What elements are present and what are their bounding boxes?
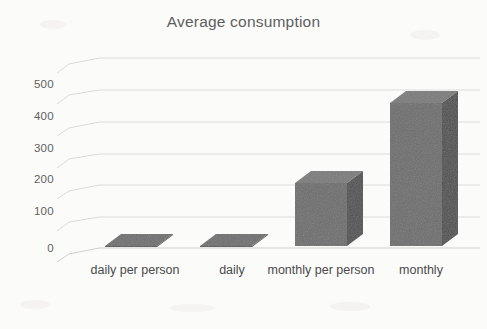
y-tick-0: 0 (10, 242, 54, 254)
x-tick-monthly-per-person: monthly per person (266, 262, 376, 279)
y-tick-500: 500 (10, 78, 54, 90)
bar-daily (200, 234, 268, 247)
y-tick-100: 100 (10, 205, 54, 217)
bar-monthly (390, 91, 458, 246)
y-tick-200: 200 (10, 173, 54, 185)
y-tick-400: 400 (10, 110, 54, 122)
y-tick-300: 300 (10, 142, 54, 154)
bars-group (0, 0, 487, 329)
x-tick-daily-per-person: daily per person (80, 262, 190, 279)
chart-figure: Average consumption (0, 0, 487, 329)
bar-daily-per-person (105, 234, 173, 247)
plot-area: 500 400 300 200 100 0 daily per person d… (0, 0, 487, 329)
x-tick-monthly: monthly (366, 262, 476, 279)
bar-monthly-per-person (295, 171, 363, 246)
